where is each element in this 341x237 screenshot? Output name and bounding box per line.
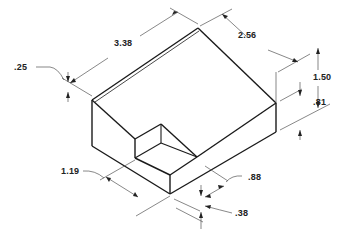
dim-label-height-step: .81: [313, 97, 326, 107]
dim-label-ledge: .25: [14, 62, 27, 72]
arrowheads: [66, 11, 320, 218]
dim-label-height-total: 1.50: [313, 72, 331, 82]
dim-label-notch-depth: .88: [248, 172, 261, 182]
dim-label-length: 3.38: [114, 38, 132, 48]
dim-label-width: 2.56: [238, 30, 256, 40]
dim-label-notch-offset: .38: [235, 208, 248, 218]
dim-label-notch-length: 1.19: [61, 166, 79, 176]
dimension-lines: [36, 8, 330, 229]
isometric-drawing: [0, 0, 341, 237]
